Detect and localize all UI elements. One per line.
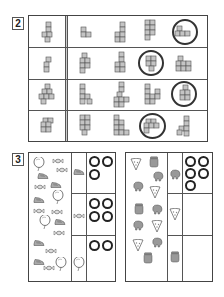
ring-icon[interactable] bbox=[185, 156, 196, 167]
balloon-icon bbox=[73, 257, 85, 272]
jar-icon bbox=[142, 252, 154, 264]
ring-icon[interactable] bbox=[89, 156, 100, 167]
exercise-3-label: 3 bbox=[12, 153, 24, 166]
ring-icon[interactable] bbox=[89, 240, 100, 251]
reference-cube-figure bbox=[37, 83, 59, 107]
option-cube-figure[interactable] bbox=[77, 52, 95, 76]
option-cube-figure[interactable] bbox=[77, 83, 97, 107]
sneaker-icon bbox=[50, 181, 62, 189]
option-cube-figure[interactable] bbox=[113, 21, 129, 43]
elephant-icon bbox=[151, 204, 163, 215]
option-cube-figure[interactable] bbox=[143, 19, 159, 45]
option-cube-figure[interactable] bbox=[77, 114, 95, 138]
balloon-icon bbox=[55, 257, 67, 272]
exercise-2-panel bbox=[28, 15, 208, 142]
option-cube-figure[interactable] bbox=[111, 114, 131, 138]
ring-icon[interactable] bbox=[89, 169, 100, 180]
candy-icon bbox=[51, 209, 63, 215]
ring-icon[interactable] bbox=[102, 198, 113, 209]
answer-circle[interactable] bbox=[171, 81, 197, 107]
candy-icon bbox=[56, 167, 68, 173]
ring-icon[interactable] bbox=[185, 168, 196, 179]
exercise-3-left-panel bbox=[28, 152, 116, 282]
candy-icon bbox=[53, 230, 65, 236]
sneaker-icon bbox=[73, 168, 85, 176]
ring-icon[interactable] bbox=[185, 180, 196, 191]
sneaker-icon bbox=[37, 172, 49, 180]
reference-cube-figure bbox=[39, 117, 55, 133]
ring-icon[interactable] bbox=[102, 156, 113, 167]
elephant-icon bbox=[151, 237, 163, 248]
jar-icon bbox=[169, 251, 181, 263]
pizza-slice-icon bbox=[169, 208, 181, 221]
balloon-icon bbox=[39, 215, 51, 230]
column-divider bbox=[167, 153, 168, 281]
candy-icon bbox=[52, 158, 64, 164]
column-divider bbox=[71, 153, 72, 281]
elephant-icon bbox=[132, 220, 144, 231]
row-divider bbox=[29, 79, 207, 80]
option-cube-figure[interactable] bbox=[111, 81, 131, 109]
jar-icon bbox=[148, 156, 160, 168]
ring-icon[interactable] bbox=[198, 156, 209, 167]
sneaker-icon bbox=[33, 239, 45, 247]
elephant-icon bbox=[132, 181, 144, 192]
ring-icon[interactable] bbox=[198, 168, 209, 179]
candy-icon bbox=[33, 208, 45, 214]
option-cube-figure[interactable] bbox=[175, 115, 193, 137]
sneaker-icon bbox=[33, 196, 45, 204]
pizza-slice-icon bbox=[130, 158, 142, 171]
candy-icon bbox=[43, 265, 55, 271]
ring-icon[interactable] bbox=[89, 198, 100, 209]
row-divider bbox=[71, 235, 115, 236]
exercise-3-right-panel bbox=[125, 152, 213, 282]
row-divider bbox=[29, 47, 207, 48]
column-divider bbox=[182, 153, 183, 281]
jar-icon bbox=[133, 203, 145, 215]
answer-circle[interactable] bbox=[139, 113, 166, 139]
column-divider bbox=[86, 153, 87, 281]
row-divider bbox=[167, 193, 212, 194]
row-divider bbox=[167, 235, 212, 236]
balloon-icon bbox=[52, 190, 64, 205]
elephant-icon bbox=[152, 171, 164, 182]
option-cube-figure[interactable] bbox=[111, 51, 129, 77]
candy-icon bbox=[34, 184, 46, 190]
elephant-icon bbox=[169, 169, 181, 180]
reference-cube-figure bbox=[41, 56, 55, 74]
ring-icon[interactable] bbox=[102, 240, 113, 251]
reference-cube-figure bbox=[39, 21, 57, 43]
row-divider bbox=[29, 110, 207, 111]
answer-circle[interactable] bbox=[138, 50, 164, 76]
ring-icon[interactable] bbox=[102, 211, 113, 222]
option-cube-figure[interactable] bbox=[143, 83, 163, 107]
balloon-icon bbox=[33, 157, 45, 172]
pizza-slice-icon bbox=[132, 239, 144, 252]
option-cube-figure[interactable] bbox=[174, 54, 196, 72]
candy-icon bbox=[73, 213, 85, 219]
sneaker-icon bbox=[54, 218, 66, 226]
exercise-2-label: 2 bbox=[12, 17, 24, 30]
ring-icon[interactable] bbox=[89, 211, 100, 222]
candy-icon bbox=[45, 248, 57, 254]
option-cube-figure[interactable] bbox=[79, 25, 95, 41]
row-divider bbox=[71, 193, 115, 194]
pizza-slice-icon bbox=[151, 220, 163, 233]
answer-circle[interactable] bbox=[172, 19, 198, 45]
pizza-slice-icon bbox=[149, 186, 161, 199]
